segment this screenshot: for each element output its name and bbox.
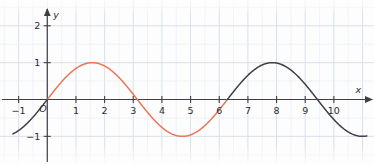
x-tick-label: 9 — [302, 105, 308, 116]
grid-layer — [0, 0, 374, 164]
x-axis-arrowhead — [365, 96, 373, 103]
y-tick-label: 2 — [34, 20, 40, 31]
x-tick-label: 3 — [130, 105, 136, 116]
x-tick-label: −1 — [12, 105, 26, 116]
x-axis-label: x — [354, 84, 361, 95]
label-layer: −11234567891021−1xyO — [12, 9, 362, 142]
y-axis-arrowhead — [44, 8, 51, 16]
y-axis-label: y — [52, 9, 59, 20]
x-tick-label: 5 — [188, 105, 194, 116]
x-tick-label: 2 — [102, 105, 108, 116]
x-tick-label: 8 — [274, 105, 280, 116]
sine-graph-figure: −11234567891021−1xyO — [0, 0, 374, 164]
origin-label: O — [39, 103, 47, 114]
x-tick-label: 7 — [245, 105, 251, 116]
coordinate-plane: −11234567891021−1xyO — [0, 0, 374, 164]
x-tick-label: 4 — [159, 105, 165, 116]
x-tick-label: 6 — [216, 105, 222, 116]
axis-layer — [2, 8, 373, 162]
y-tick-label: 1 — [34, 57, 40, 68]
y-tick-label: −1 — [26, 131, 40, 142]
x-tick-label: 10 — [328, 105, 340, 116]
x-tick-label: 1 — [73, 105, 79, 116]
